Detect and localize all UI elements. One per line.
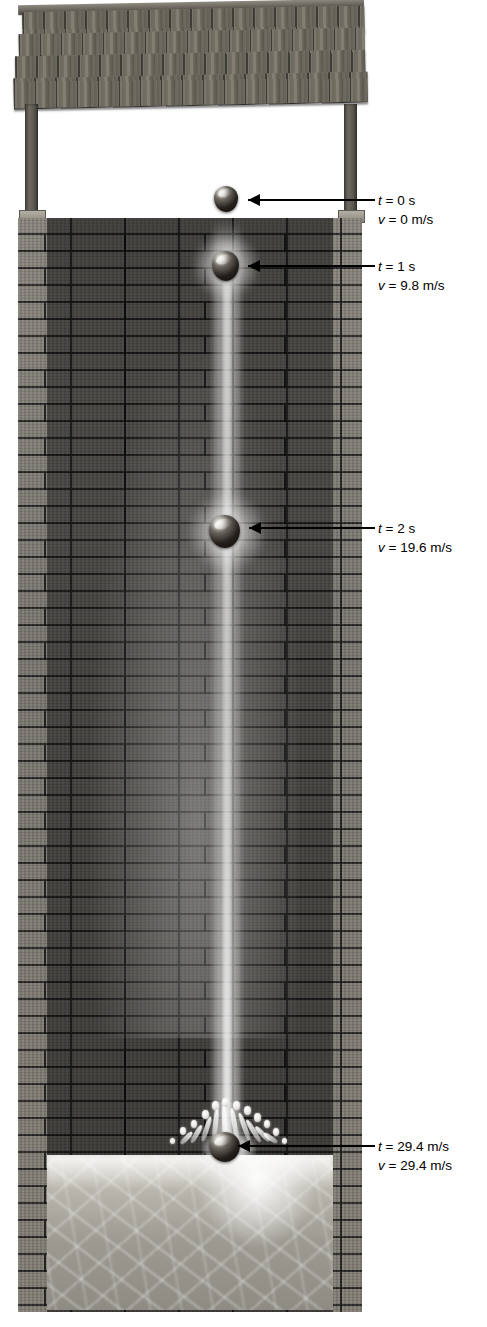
brick-bond-row <box>18 473 362 490</box>
arrow-head-icon <box>238 1140 250 1152</box>
ball-t0 <box>214 186 238 212</box>
time-value: = 29.4 m/s <box>386 1139 449 1154</box>
arrow-head-icon <box>248 260 260 272</box>
label-t2-time: t = 2 s <box>378 519 452 538</box>
time-value: = 1 s <box>386 259 416 274</box>
velocity-value: = 19.6 m/s <box>389 540 452 555</box>
brick-bond-row <box>18 813 362 830</box>
ball-t1 <box>212 251 239 281</box>
arrow-shaft <box>248 265 375 267</box>
brick-bond-row <box>18 371 362 388</box>
support-post-left <box>25 104 38 218</box>
brick-bond-row <box>18 677 362 694</box>
water-impact-glow <box>197 1155 317 1247</box>
water-pool <box>47 1155 333 1310</box>
splash-droplet <box>264 1120 270 1128</box>
brick-bond-row <box>18 439 362 456</box>
brick-bond-row <box>18 643 362 660</box>
splash-droplet <box>191 1120 197 1128</box>
brick-bond-row <box>18 1017 362 1034</box>
velocity-symbol: v <box>378 212 385 227</box>
label-t0-velocity: v = 0 m/s <box>378 210 433 229</box>
velocity-symbol: v <box>378 540 385 555</box>
wall-glow <box>88 338 298 1038</box>
splash-droplet <box>273 1128 279 1136</box>
brick-bond-row <box>18 881 362 898</box>
time-value: = 0 s <box>386 193 416 208</box>
brick-bond-row <box>18 1051 362 1068</box>
label-t3-time: t = 29.4 m/s <box>378 1137 452 1156</box>
arrow-head-icon <box>249 522 261 534</box>
brick-bond-row <box>18 609 362 626</box>
splash-droplet <box>170 1138 175 1144</box>
ball-t3 <box>209 1132 240 1162</box>
splash-droplet <box>180 1127 186 1135</box>
velocity-value: = 9.8 m/s <box>389 278 445 293</box>
roof <box>12 0 370 109</box>
ball-t2 <box>209 515 240 548</box>
arrow-head-icon <box>248 194 260 206</box>
splash-droplet <box>244 1106 251 1115</box>
brick-bond-row <box>18 303 362 320</box>
brick-bond-row <box>18 779 362 796</box>
brick-bond-row <box>18 949 362 966</box>
label-t1: t = 1 s v = 9.8 m/s <box>378 257 444 295</box>
motion-streak-core <box>223 238 231 1168</box>
brick-bond-row <box>18 847 362 864</box>
shingle-row <box>13 72 368 110</box>
splash-droplet <box>233 1101 240 1110</box>
time-symbol: t <box>378 259 382 274</box>
label-t1-velocity: v = 9.8 m/s <box>378 276 444 295</box>
arrow-shaft <box>249 527 375 529</box>
label-t2-velocity: v = 19.6 m/s <box>378 538 452 557</box>
time-symbol: t <box>378 193 382 208</box>
label-t0-time: t = 0 s <box>378 191 433 210</box>
brick-bond-row <box>18 541 362 558</box>
time-symbol: t <box>378 521 382 536</box>
arrow-shaft <box>248 199 375 201</box>
brick-bond-row <box>18 745 362 762</box>
brick-bond-row <box>18 915 362 932</box>
brick-bond-row <box>18 575 362 592</box>
label-t3-velocity: v = 29.4 m/s <box>378 1156 452 1175</box>
label-t3: t = 29.4 m/s v = 29.4 m/s <box>378 1137 452 1175</box>
free-fall-figure: t = 0 s v = 0 m/s t = 1 s v = 9.8 m/s t … <box>0 0 487 1327</box>
time-value: = 2 s <box>386 521 416 536</box>
velocity-symbol: v <box>378 278 385 293</box>
velocity-value: = 0 m/s <box>389 212 434 227</box>
label-t1-time: t = 1 s <box>378 257 444 276</box>
splash-droplet <box>254 1113 261 1122</box>
brick-bond-row <box>18 235 362 252</box>
splash-droplet <box>212 1101 219 1110</box>
callout-arrow-t3 <box>238 1140 375 1152</box>
callout-arrow-t1 <box>248 260 375 272</box>
velocity-symbol: v <box>378 1158 385 1173</box>
brick-bond-row <box>18 711 362 728</box>
motion-streak <box>214 218 240 1158</box>
brick-bond-row <box>18 337 362 354</box>
label-t0: t = 0 s v = 0 m/s <box>378 191 433 229</box>
splash-droplet <box>202 1110 209 1119</box>
time-symbol: t <box>378 1139 382 1154</box>
brick-bond-row <box>18 983 362 1000</box>
label-t2: t = 2 s v = 19.6 m/s <box>378 519 452 557</box>
callout-arrow-t2 <box>249 522 375 534</box>
brick-bond-row <box>18 405 362 422</box>
callout-arrow-t0 <box>248 194 375 206</box>
velocity-value: = 29.4 m/s <box>389 1158 452 1173</box>
arrow-shaft <box>238 1145 375 1147</box>
splash-droplet <box>222 1098 229 1107</box>
